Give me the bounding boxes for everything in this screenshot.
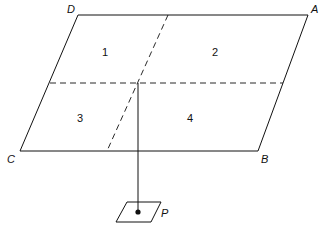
vertex-label-a: A [310, 3, 318, 15]
region-label-2: 2 [212, 46, 218, 58]
vertex-label-c: C [7, 153, 15, 165]
point-label-p: P [161, 207, 169, 219]
point-p-dot [135, 209, 140, 214]
region-label-1: 1 [102, 46, 108, 58]
region-label-3: 3 [77, 112, 83, 124]
vertex-label-b: B [261, 153, 268, 165]
region-label-4: 4 [187, 112, 193, 124]
diagram-canvas: D A B C 1 2 3 4 P [0, 0, 327, 234]
vertex-label-d: D [67, 3, 75, 15]
